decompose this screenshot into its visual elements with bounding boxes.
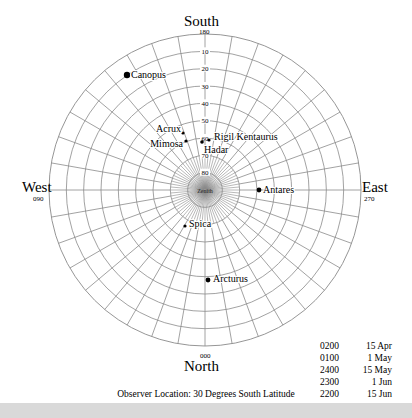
degrees-south: 180 xyxy=(199,29,210,36)
direction-north: North xyxy=(184,359,219,374)
star-label: Rigil Kentaurus xyxy=(214,131,278,142)
direction-east: East xyxy=(362,180,388,195)
star-dot-icon xyxy=(184,139,187,142)
zenith-label: Zenith xyxy=(197,188,213,194)
bottom-bar xyxy=(0,403,412,418)
degrees-east: 270 xyxy=(364,196,375,203)
star-canopus: Canopus xyxy=(124,69,166,80)
star-arcturus: Arcturus xyxy=(206,273,248,284)
star-label: Mimosa xyxy=(150,138,183,149)
star-label: Spica xyxy=(189,218,212,229)
star-label: Acrux xyxy=(156,123,181,134)
svg-text:10: 10 xyxy=(202,48,210,56)
observer-location: Observer Location: 30 Degrees South Lati… xyxy=(0,389,412,399)
star-label: Hadar xyxy=(204,144,229,155)
star-dot-icon xyxy=(183,224,186,227)
direction-west: West xyxy=(22,180,52,195)
svg-text:20: 20 xyxy=(202,65,210,73)
degrees-west: 090 xyxy=(33,196,44,203)
svg-text:40: 40 xyxy=(202,100,210,108)
star-antares: Antares xyxy=(257,184,295,195)
time-row: 020015 Apr xyxy=(320,340,392,352)
time-row: 23001 Jun xyxy=(320,376,392,388)
star-acrux: Acrux xyxy=(156,123,185,135)
altitude-azimuth-grid: Zenith xyxy=(49,34,361,346)
star-mimosa: Mimosa xyxy=(150,138,187,149)
star-label: Arcturus xyxy=(213,273,248,284)
star-dot-icon xyxy=(207,138,210,141)
star-dot-icon xyxy=(206,278,211,283)
star-dot-icon xyxy=(181,131,184,134)
star-label: Antares xyxy=(263,184,294,195)
star-dot-icon xyxy=(124,72,130,78)
star-dot-icon xyxy=(257,188,262,193)
time-row: 240015 May xyxy=(320,364,392,376)
degrees-north: 000 xyxy=(200,353,211,360)
direction-south: South xyxy=(184,14,219,29)
time-row: 01001 May xyxy=(320,352,392,364)
svg-text:80: 80 xyxy=(202,169,210,177)
star-label: Canopus xyxy=(131,69,166,80)
svg-text:50: 50 xyxy=(202,117,210,125)
star-rigil-kentaurus: Rigil Kentaurus xyxy=(207,131,277,142)
svg-text:30: 30 xyxy=(202,83,210,91)
